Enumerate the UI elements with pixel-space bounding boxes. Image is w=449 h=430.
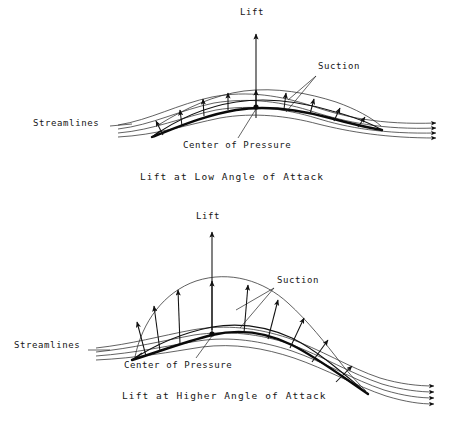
center-of-pressure-label-top: Center of Pressure bbox=[183, 141, 291, 150]
panel-higher-angle bbox=[88, 232, 434, 404]
caption-low-angle: Lift at Low Angle of Attack bbox=[140, 172, 324, 182]
center-of-pressure-label-bottom: Center of Pressure bbox=[124, 361, 232, 370]
center-of-pressure-leader-top bbox=[238, 109, 256, 138]
streamlines-label-bottom: Streamlines bbox=[14, 341, 80, 350]
caption-higher-angle: Lift at Higher Angle of Attack bbox=[122, 391, 327, 401]
panel-low-angle bbox=[110, 34, 436, 138]
lift-label-bottom: Lift bbox=[196, 212, 220, 221]
center-of-pressure-marker-bottom bbox=[209, 331, 214, 336]
center-of-pressure-marker-top bbox=[253, 104, 258, 109]
suction-label-bottom: Suction bbox=[277, 276, 319, 285]
lift-diagram-figure: Lift Suction Streamlines Center of Press… bbox=[0, 0, 449, 430]
airfoil-low-angle bbox=[152, 100, 382, 137]
suction-leader-bottom bbox=[236, 288, 274, 328]
suction-label-top: Suction bbox=[318, 62, 360, 71]
streamlines-label-top: Streamlines bbox=[33, 119, 99, 128]
suction-envelope-bottom bbox=[135, 277, 366, 391]
lift-label-top: Lift bbox=[240, 8, 264, 17]
